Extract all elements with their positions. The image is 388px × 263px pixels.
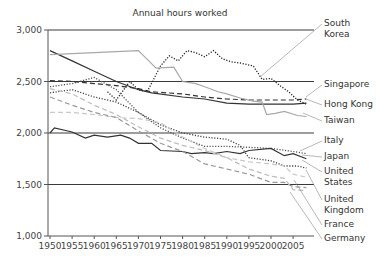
series-italy xyxy=(50,77,306,153)
leader-line xyxy=(306,99,322,105)
leader-line xyxy=(302,155,322,157)
series-label-united-states: United xyxy=(324,166,354,176)
leader-line xyxy=(260,24,322,77)
series-united-kingdom xyxy=(50,112,306,177)
y-tick-label: 1,000 xyxy=(16,231,42,241)
y-tick-label: 2,500 xyxy=(16,77,42,87)
chart-title: Annual hours worked xyxy=(132,8,227,18)
leader-line xyxy=(300,141,322,151)
series-taiwan xyxy=(50,51,306,117)
x-tick-label: 1955 xyxy=(61,241,84,251)
x-tick-label: 1990 xyxy=(215,241,238,251)
x-tick-label: 1995 xyxy=(237,241,260,251)
x-tick-label: 1950 xyxy=(39,241,62,251)
x-tick-label: 1980 xyxy=(171,241,194,251)
series-france xyxy=(50,97,306,188)
line-chart: Annual hours worked 1,0001,5002,0002,500… xyxy=(0,0,388,263)
series-label-taiwan: Taiwan xyxy=(323,115,355,125)
series-label-singapore: Singapore xyxy=(324,79,370,89)
series-labels: SouthKoreaSingaporeHong KongTaiwanItalyJ… xyxy=(260,18,373,243)
series-lines xyxy=(50,51,306,191)
series-label-united-kingdom: Kingdom xyxy=(324,205,364,215)
x-tick-label: 2005 xyxy=(282,241,305,251)
x-tick-label: 1960 xyxy=(83,241,106,251)
y-tick-label: 1,500 xyxy=(16,180,42,190)
y-tick-label: 3,000 xyxy=(16,25,42,35)
x-tick-label: 1985 xyxy=(193,241,216,251)
series-label-japan: Japan xyxy=(323,151,349,161)
series-label-south-korea: Korea xyxy=(324,29,350,39)
series-united-states xyxy=(50,90,306,168)
series-hong-kong xyxy=(50,51,306,105)
series-singapore xyxy=(50,81,306,101)
series-japan xyxy=(50,128,306,159)
x-tick-label: 1965 xyxy=(105,241,128,251)
series-label-italy: Italy xyxy=(324,135,344,145)
series-label-germany: Germany xyxy=(324,233,366,243)
series-label-united-states: States xyxy=(324,177,353,187)
series-label-united-kingdom: United xyxy=(324,194,354,204)
leader-line xyxy=(302,160,322,172)
y-tick-label: 2,000 xyxy=(16,128,42,138)
series-label-south-korea: South xyxy=(324,18,350,28)
y-axis: 1,0001,5002,0002,5003,000 xyxy=(16,25,48,241)
x-axis: 1950195519601965197019751980198519901995… xyxy=(39,236,314,251)
series-label-hong-kong: Hong Kong xyxy=(324,99,373,109)
leader-line xyxy=(306,85,322,97)
x-tick-label: 1975 xyxy=(149,241,172,251)
x-tick-label: 1970 xyxy=(127,241,150,251)
series-label-france: France xyxy=(324,219,354,229)
series-south-korea xyxy=(108,51,307,105)
x-tick-label: 2000 xyxy=(260,241,283,251)
